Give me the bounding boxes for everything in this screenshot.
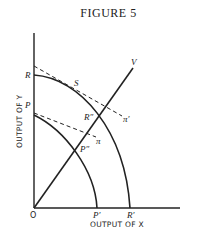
x-axis-label: OUTPUT OF X [90,220,144,229]
production-possibility-diagram: R P S R″ P″ π π′ V P′ R′ O OUTPUT OF X O… [0,0,217,229]
label-origin: O [30,211,36,220]
y-axis-label: OUTPUT OF Y [15,94,24,148]
label-S: S [74,78,79,88]
label-pi: π [96,136,101,146]
label-P: P [24,100,31,110]
label-V: V [131,57,138,67]
label-P-double-prime: P″ [79,144,89,154]
label-R-double-prime: R″ [83,112,93,122]
price-line-pi-prime [34,66,122,116]
label-pi-prime: π′ [123,114,131,124]
label-R-prime: R′ [126,210,135,220]
label-P-prime: P′ [92,210,101,220]
ray-OV [34,68,133,208]
label-R: R [24,70,31,80]
